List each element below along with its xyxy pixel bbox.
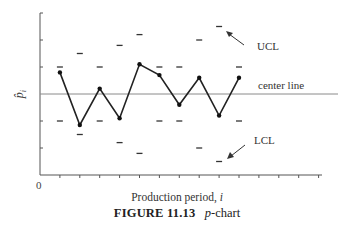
figure-title-suffix: -chart: [211, 206, 240, 220]
ucl-arrow: [226, 31, 244, 45]
x-axis-variable: i: [220, 191, 223, 203]
x-axis-origin-label: 0: [36, 179, 42, 191]
figure-caption: FIGURE 11.13 p-chart: [0, 206, 354, 221]
lcl-arrow: [227, 145, 245, 159]
center-line-label: center line: [258, 79, 304, 91]
x-axis-label: Production period, i: [0, 191, 354, 203]
proportion-series-points: [58, 62, 242, 127]
figure-number: FIGURE 11.13: [114, 206, 196, 220]
ucl-label: UCL: [257, 40, 279, 52]
lcl-label: LCL: [254, 134, 275, 146]
x-axis: [40, 175, 322, 178]
y-axis-label: p̂i: [12, 90, 28, 98]
proportion-series-line: [60, 64, 239, 125]
